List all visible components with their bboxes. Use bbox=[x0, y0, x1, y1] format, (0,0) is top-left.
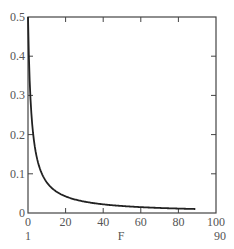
y-tick-label: 0.4 bbox=[10, 49, 25, 63]
x-tick-label: 60 bbox=[135, 215, 147, 229]
y-tick-label: 0.5 bbox=[10, 10, 25, 24]
x-tick-label: 80 bbox=[172, 215, 184, 229]
plot-border bbox=[28, 17, 216, 213]
plot-frame bbox=[28, 17, 216, 213]
data-series bbox=[28, 17, 195, 209]
y-tick-label: 0.2 bbox=[10, 128, 25, 142]
chart-canvas: 00.10.20.30.40.5 020406080100 F 1 90 bbox=[0, 0, 234, 249]
x-range-start-annotation: 1 bbox=[25, 229, 31, 243]
series-line bbox=[28, 17, 195, 209]
x-range-end-annotation: 90 bbox=[214, 229, 226, 243]
x-tick-label: 0 bbox=[25, 215, 31, 229]
y-tick-label: 0.3 bbox=[10, 88, 25, 102]
y-axis-ticks: 00.10.20.30.40.5 bbox=[10, 10, 216, 220]
x-axis-label: F bbox=[118, 229, 125, 243]
y-tick-label: 0.1 bbox=[10, 167, 25, 181]
x-tick-label: 40 bbox=[97, 215, 109, 229]
x-tick-label: 100 bbox=[207, 215, 225, 229]
x-tick-label: 20 bbox=[60, 215, 72, 229]
x-axis-ticks: 020406080100 bbox=[25, 17, 225, 229]
